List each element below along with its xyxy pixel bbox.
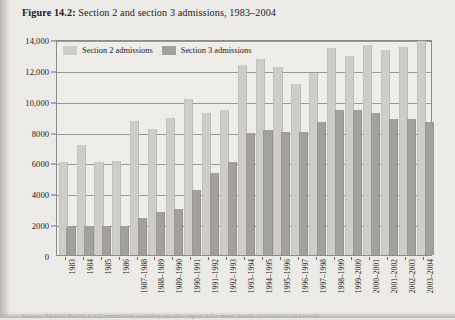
x-axis-tick-label: 1996–1997: [301, 259, 310, 293]
x-axis-tick-mark: [137, 257, 138, 260]
x-axis-tick-label: 1989–1990: [175, 259, 184, 293]
bar-group: [57, 39, 75, 255]
figure-title: Figure 14.2: Section 2 and section 3 adm…: [22, 7, 276, 18]
x-axis-tick-label: 1988–1989: [157, 259, 166, 293]
x-axis-tick-label: 1995–1996: [283, 259, 292, 293]
figure-title-text: Section 2 and section 3 admissions, 1983…: [76, 7, 276, 18]
bar-group: [326, 39, 344, 255]
x-axis-tick-mark: [244, 257, 245, 260]
y-axis-tick-label-8000: 8000: [32, 129, 49, 139]
bar-group: [182, 39, 200, 255]
bar-group: [254, 39, 272, 255]
x-axis-tick-label: 1997–1998: [319, 259, 328, 293]
bar-group: [290, 39, 308, 255]
bar-group: [111, 39, 129, 255]
legend-swatch-section2: [63, 46, 77, 55]
bar-group: [272, 39, 290, 255]
y-axis-tick-label-4000: 4000: [32, 190, 49, 200]
bar-section3: [425, 122, 434, 255]
y-axis-tick-label-0: 0: [45, 252, 49, 262]
x-axis-tick-mark: [262, 257, 263, 260]
figure-number: Figure 14.2:: [22, 7, 76, 18]
x-axis-tick-label: 1985: [104, 259, 113, 274]
x-axis-tick-mark: [280, 257, 281, 260]
x-axis-tick-label: 1999–2000: [354, 259, 363, 293]
bar-group: [236, 39, 254, 255]
x-axis-tick-label: 1987–1988: [140, 259, 149, 293]
x-axis-tick-mark: [334, 257, 335, 260]
x-axis-tick-label: 1991–1992: [211, 259, 220, 293]
x-axis-tick-label: 1983: [68, 259, 77, 274]
x-axis-tick-label: 1984: [86, 259, 95, 274]
y-axis-tick-label-14000: 14,000: [25, 36, 49, 46]
y-axis-tick-label-10000: 10,000: [25, 98, 49, 108]
legend-item-section2: Section 2 admissions: [63, 46, 153, 55]
bar-group: [343, 39, 361, 255]
x-axis-tick-mark: [405, 257, 406, 260]
y-axis-tick-label-12000: 12,000: [25, 67, 49, 77]
bar-group: [129, 39, 147, 255]
bar-group: [397, 39, 415, 255]
y-axis-tick-label-2000: 2000: [32, 221, 49, 231]
x-axis-tick-mark: [190, 257, 191, 260]
x-axis-tick-label: 1998–1999: [337, 259, 346, 293]
bar-group: [218, 39, 236, 255]
legend-item-section3: Section 3 admissions: [162, 46, 252, 55]
x-axis-tick-mark: [316, 257, 317, 260]
x-axis-tick-label: 2002–2003: [408, 259, 417, 293]
x-axis-tick-mark: [154, 257, 155, 260]
x-axis-tick-mark: [101, 257, 102, 260]
bar-group: [361, 39, 379, 255]
plot-area: Section 2 admissionsSection 3 admissions: [56, 40, 432, 256]
bar-group: [164, 39, 182, 255]
bar-group: [147, 39, 165, 255]
x-axis: 19831984198519861987–19881988–19891989–1…: [56, 257, 432, 315]
y-axis: 0200040006000800010,00012,00014,000: [0, 40, 56, 257]
x-axis-tick-label: 2001–2002: [390, 259, 399, 293]
x-axis-tick-label: 1986: [122, 259, 131, 274]
x-axis-tick-mark: [226, 257, 227, 260]
chart-legend: Section 2 admissionsSection 3 admissions: [63, 46, 251, 55]
bar-group: [200, 39, 218, 255]
x-axis-tick-label: 1992–1993: [229, 259, 238, 293]
x-axis-tick-mark: [208, 257, 209, 260]
x-axis-tick-mark: [423, 257, 424, 260]
x-axis-tick-mark: [172, 257, 173, 260]
legend-label-section2: Section 2 admissions: [82, 46, 153, 55]
x-axis-tick-mark: [83, 257, 84, 260]
x-axis-tick-mark: [298, 257, 299, 260]
bar-group: [308, 39, 326, 255]
legend-label-section3: Section 3 admissions: [181, 46, 252, 55]
x-axis-tick-mark: [65, 257, 66, 260]
x-axis-tick-label: 1993–1994: [247, 259, 256, 293]
legend-swatch-section3: [162, 46, 176, 55]
bar-group: [75, 39, 93, 255]
page-edge-shadow-bottom: [0, 312, 455, 318]
x-axis-tick-label: 1990–1991: [193, 259, 202, 293]
y-axis-tick-label-6000: 6000: [32, 159, 49, 169]
x-axis-tick-label: 1994–1995: [265, 259, 274, 293]
bar-series-container: [57, 41, 431, 255]
x-axis-tick-label: 2003–2004: [426, 259, 435, 293]
x-axis-tick-mark: [351, 257, 352, 260]
x-axis-tick-mark: [369, 257, 370, 260]
bar-group: [415, 39, 433, 255]
x-axis-tick-mark: [119, 257, 120, 260]
bar-group: [379, 39, 397, 255]
x-axis-tick-label: 2000–2001: [372, 259, 381, 293]
x-axis-tick-mark: [387, 257, 388, 260]
bar-group: [93, 39, 111, 255]
